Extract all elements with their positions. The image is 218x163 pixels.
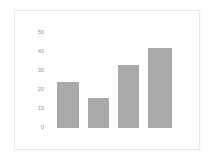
bar-series bbox=[0, 0, 218, 163]
bar-1 bbox=[57, 82, 79, 128]
bar-3 bbox=[118, 65, 139, 128]
bar-2 bbox=[88, 98, 109, 128]
bar-4 bbox=[148, 48, 172, 128]
chart-figure: 50 40 30 20 10 0 bbox=[0, 0, 218, 163]
